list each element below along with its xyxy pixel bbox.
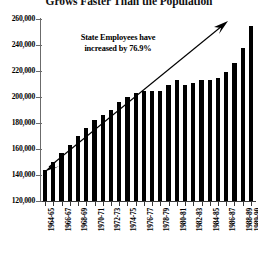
x-axis-tick bbox=[53, 202, 54, 206]
x-axis-label: 1968-69 bbox=[81, 208, 89, 231]
bar bbox=[208, 80, 212, 201]
x-axis-label: 1976-77 bbox=[147, 208, 155, 231]
bar bbox=[183, 85, 187, 201]
bar bbox=[175, 80, 179, 201]
y-axis-tick bbox=[36, 71, 42, 72]
y-axis-label: 240,000 bbox=[0, 41, 35, 49]
x-axis-line bbox=[40, 201, 256, 202]
x-axis-tick bbox=[70, 202, 71, 206]
x-axis-tick bbox=[62, 202, 63, 206]
x-axis-label: 1966-67 bbox=[65, 208, 73, 231]
bar bbox=[142, 91, 146, 202]
x-axis-tick bbox=[234, 202, 235, 206]
x-axis-label: 1984-85 bbox=[213, 208, 221, 231]
y-axis-tick bbox=[36, 19, 42, 20]
x-axis-label: 1989-90 bbox=[254, 208, 258, 231]
bar bbox=[117, 102, 121, 201]
x-axis-label: 1974-75 bbox=[130, 208, 138, 231]
x-axis-tick bbox=[95, 202, 96, 206]
chart-page: Grows Faster Than the Population 260,000… bbox=[0, 0, 258, 257]
y-axis-tick bbox=[36, 97, 42, 98]
x-axis-tick bbox=[78, 202, 79, 206]
x-axis-tick bbox=[127, 202, 128, 206]
x-axis-tick bbox=[86, 202, 87, 206]
bar bbox=[249, 26, 253, 202]
bar bbox=[125, 97, 129, 201]
y-axis-label: 220,000 bbox=[0, 67, 35, 75]
y-axis-label: 140,000 bbox=[0, 171, 35, 179]
x-axis-label: 1970-71 bbox=[98, 208, 106, 231]
bar bbox=[199, 80, 203, 201]
bar bbox=[241, 48, 245, 201]
x-axis-tick bbox=[45, 202, 46, 206]
bar bbox=[158, 91, 162, 202]
y-axis-tick bbox=[36, 149, 42, 150]
bar bbox=[76, 136, 80, 201]
x-axis-tick bbox=[251, 202, 252, 206]
annotation-label: State Employees have increased by 76.9% bbox=[57, 33, 179, 54]
x-axis-label: 1964-65 bbox=[48, 208, 56, 231]
bar bbox=[150, 91, 154, 202]
bar bbox=[166, 85, 170, 201]
x-axis-label: 1972-73 bbox=[114, 208, 122, 231]
bar bbox=[216, 78, 220, 202]
bar bbox=[43, 170, 47, 201]
x-axis-tick bbox=[152, 202, 153, 206]
y-axis-label: 180,000 bbox=[0, 119, 35, 127]
x-axis-tick bbox=[111, 202, 112, 206]
y-axis-label: 260,000 bbox=[0, 15, 35, 23]
annotation-line-2: increased by 76.9% bbox=[84, 44, 151, 53]
bar bbox=[232, 63, 236, 201]
y-axis-tick bbox=[36, 123, 42, 124]
y-axis-tick bbox=[36, 45, 42, 46]
bar bbox=[191, 83, 195, 201]
bar bbox=[68, 145, 72, 201]
x-axis-tick bbox=[202, 202, 203, 206]
x-axis-label: 1978-79 bbox=[163, 208, 171, 231]
y-axis-label: 200,000 bbox=[0, 93, 35, 101]
bar bbox=[109, 110, 113, 201]
bar bbox=[101, 115, 105, 201]
x-axis-tick bbox=[218, 202, 219, 206]
x-axis-label: 1986-87 bbox=[229, 208, 237, 231]
x-axis-tick bbox=[103, 202, 104, 206]
x-axis-label: 1982-83 bbox=[196, 208, 204, 231]
x-axis-tick bbox=[119, 202, 120, 206]
annotation-line-1: State Employees have bbox=[81, 33, 156, 42]
x-axis-tick bbox=[185, 202, 186, 206]
x-axis-label: 1980-81 bbox=[180, 208, 188, 231]
y-axis-label: 160,000 bbox=[0, 145, 35, 153]
bar bbox=[92, 120, 96, 201]
x-axis-tick bbox=[193, 202, 194, 206]
bar bbox=[84, 128, 88, 201]
x-axis-tick bbox=[210, 202, 211, 206]
bar bbox=[224, 72, 228, 201]
y-axis-tick bbox=[36, 201, 42, 202]
x-axis-tick bbox=[169, 202, 170, 206]
x-axis-tick bbox=[177, 202, 178, 206]
x-axis-tick bbox=[144, 202, 145, 206]
x-axis-tick bbox=[160, 202, 161, 206]
y-axis-tick bbox=[36, 175, 42, 176]
y-axis-label: 120,000 bbox=[0, 197, 35, 205]
bar bbox=[134, 93, 138, 201]
x-axis-tick bbox=[243, 202, 244, 206]
bar bbox=[59, 153, 63, 201]
chart-title: Grows Faster Than the Population bbox=[0, 0, 258, 7]
x-axis-tick bbox=[136, 202, 137, 206]
x-axis-tick bbox=[226, 202, 227, 206]
bar bbox=[51, 162, 55, 201]
